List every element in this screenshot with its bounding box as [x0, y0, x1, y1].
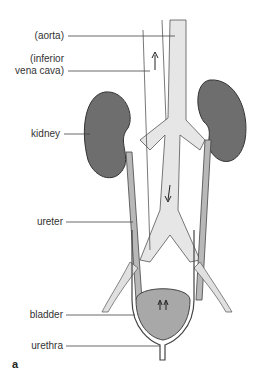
label-kidney: kidney [31, 128, 60, 140]
label-aorta: (aorta) [35, 30, 64, 42]
urinary-system-diagram: (aorta) (inferior vena cava) kidney uret… [0, 0, 267, 377]
label-ureter: ureter [37, 216, 63, 228]
label-bladder: bladder [30, 309, 63, 321]
arrow-up-icon [152, 52, 158, 70]
label-urethra: urethra [31, 340, 63, 352]
label-ivc-line2: vena cava) [15, 65, 64, 77]
ivc-line-2 [162, 20, 166, 120]
left-kidney [84, 92, 130, 178]
aorta-shape [140, 20, 205, 262]
panel-letter: a [12, 358, 18, 370]
bladder [136, 289, 190, 340]
label-ivc-line1: (inferior [30, 53, 64, 65]
